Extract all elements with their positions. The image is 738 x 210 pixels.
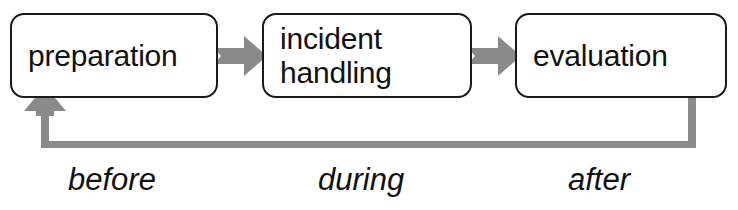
node-incident-handling-label: incident handling bbox=[264, 22, 392, 90]
node-evaluation-label: evaluation bbox=[517, 39, 668, 73]
process-flow-diagram: preparation incident handling evaluation… bbox=[0, 0, 738, 210]
node-preparation: preparation bbox=[10, 13, 218, 98]
arrow-preparation-to-incident-handling-icon bbox=[214, 34, 268, 78]
phase-label-after: after bbox=[568, 163, 630, 197]
phase-label-before: before bbox=[68, 163, 156, 197]
node-evaluation: evaluation bbox=[515, 13, 727, 98]
node-preparation-label: preparation bbox=[12, 39, 178, 73]
phase-label-during: during bbox=[318, 163, 404, 197]
node-incident-handling: incident handling bbox=[262, 13, 472, 98]
arrow-incident-handling-to-evaluation-icon bbox=[468, 34, 522, 78]
